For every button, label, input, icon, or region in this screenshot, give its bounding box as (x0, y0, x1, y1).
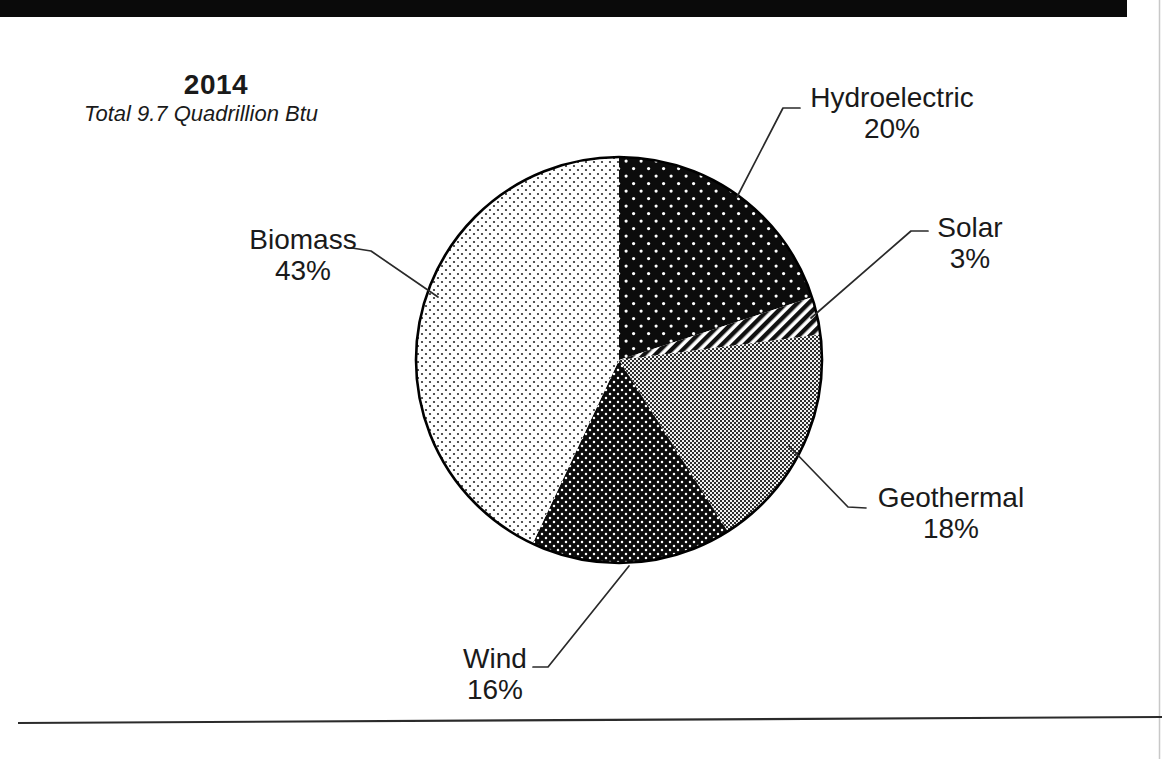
slice-name: Biomass (249, 224, 356, 255)
scan-artifact-top-bar (0, 0, 1127, 17)
leader-line-geothermal (789, 446, 866, 508)
slice-percent: 43% (249, 255, 356, 286)
slice-name: Solar (937, 212, 1002, 243)
slice-label-biomass: Biomass 43% (249, 224, 356, 286)
slice-label-geothermal: Geothermal 18% (878, 482, 1024, 544)
chart-subtitle-total: Total 9.7 Quadrillion Btu (84, 101, 318, 127)
pie (416, 157, 822, 563)
slice-percent: 20% (810, 113, 973, 144)
slice-label-wind: Wind 16% (463, 643, 527, 705)
leader-line-biomass (352, 248, 438, 297)
chart-title-year: 2014 (184, 69, 248, 101)
slice-percent: 3% (937, 243, 1002, 274)
slice-name: Wind (463, 643, 527, 674)
slice-label-hydroelectric: Hydroelectric 20% (810, 82, 973, 144)
slice-label-solar: Solar 3% (937, 212, 1002, 274)
slice-percent: 16% (463, 674, 527, 705)
bottom-rule (18, 717, 1162, 723)
scanned-page: 2014 Total 9.7 Quadrillion Btu Hydroelec… (0, 0, 1162, 759)
slice-name: Hydroelectric (810, 82, 973, 113)
leader-line-hydroelectric (737, 108, 800, 197)
leader-line-solar (811, 231, 928, 318)
leader-line-wind (533, 566, 629, 667)
slice-name: Geothermal (878, 482, 1024, 513)
slice-percent: 18% (878, 513, 1024, 544)
